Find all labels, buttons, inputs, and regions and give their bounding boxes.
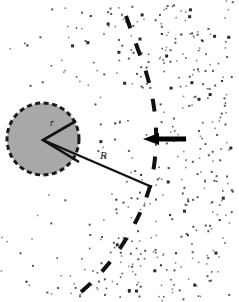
particle [121, 273, 123, 275]
particle [137, 21, 139, 23]
particle [76, 76, 78, 78]
particle [135, 290, 138, 293]
particle [150, 237, 152, 239]
particle [99, 140, 102, 143]
particle [94, 103, 96, 105]
particle [118, 39, 120, 41]
particle [224, 124, 226, 126]
particle [217, 214, 219, 216]
particle [64, 199, 66, 201]
particle [104, 294, 106, 296]
particle [131, 241, 133, 243]
particle [222, 76, 224, 78]
particle [138, 282, 140, 284]
particle [183, 96, 185, 98]
particle [228, 294, 230, 296]
particle [172, 288, 174, 290]
particle [132, 83, 134, 85]
particle [180, 10, 182, 12]
particle [188, 278, 190, 280]
particle [92, 270, 94, 272]
particle [202, 83, 204, 85]
particle [140, 253, 142, 255]
particle [123, 202, 125, 204]
particle [166, 47, 168, 49]
particle [42, 81, 44, 83]
particle [189, 8, 192, 11]
particle [60, 275, 62, 277]
particle [100, 262, 102, 264]
particle [225, 47, 227, 49]
particle [97, 150, 99, 152]
particle [25, 281, 27, 283]
particle [155, 221, 157, 223]
particle [219, 159, 221, 161]
grain-obstacle [7, 103, 79, 175]
particle [81, 28, 83, 30]
particle [183, 151, 185, 153]
particle [200, 171, 202, 173]
particle [103, 73, 105, 75]
particle [224, 105, 226, 107]
particle [177, 134, 179, 136]
particle [156, 235, 158, 237]
particle [102, 147, 104, 149]
particle [139, 296, 141, 298]
particle [100, 239, 102, 241]
particle [157, 257, 159, 259]
particle [218, 256, 220, 258]
particle [1, 237, 3, 239]
particle [76, 27, 78, 29]
particle [130, 35, 132, 37]
particle [185, 159, 187, 161]
particle [207, 230, 209, 232]
particle [166, 8, 168, 10]
particle [179, 289, 181, 291]
particle [110, 8, 112, 10]
particle [162, 194, 164, 196]
particle [231, 76, 233, 78]
particle [187, 200, 189, 202]
particle [226, 0, 228, 2]
particle [227, 183, 229, 185]
particle [106, 288, 108, 290]
particle [219, 204, 221, 206]
particle [182, 192, 184, 194]
particle [159, 177, 161, 179]
particle [90, 15, 92, 17]
particle [130, 49, 132, 51]
particle [108, 25, 110, 27]
particle [31, 238, 33, 240]
particle [79, 81, 81, 83]
particle [149, 203, 151, 205]
particle [188, 105, 190, 107]
particle [112, 281, 114, 283]
particle [120, 252, 122, 254]
particle [189, 76, 191, 78]
particle [118, 237, 120, 239]
particle [101, 236, 103, 238]
particle [185, 57, 187, 59]
particle [113, 242, 115, 244]
particle [111, 193, 113, 195]
particle [197, 173, 199, 175]
particle [117, 51, 120, 54]
particle [148, 53, 150, 55]
particle [198, 71, 200, 73]
particle [133, 52, 135, 54]
particle [232, 190, 234, 192]
particle [144, 205, 146, 207]
particle [190, 33, 192, 35]
particle [85, 40, 87, 42]
particle [187, 234, 189, 236]
bow-shock-figure: r R [0, 0, 239, 302]
particle [160, 264, 162, 266]
particle [140, 76, 142, 78]
particle [214, 128, 216, 130]
particle [137, 258, 139, 260]
particle [140, 174, 142, 176]
particle [225, 112, 227, 114]
particle [161, 300, 163, 302]
particle [196, 60, 198, 62]
particle [128, 289, 131, 292]
